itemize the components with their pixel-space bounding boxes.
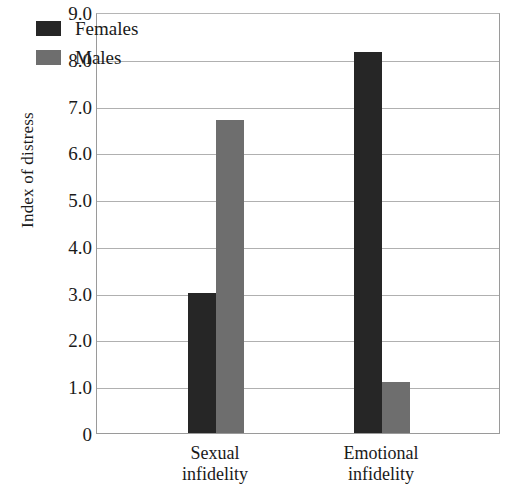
gridline bbox=[97, 154, 499, 155]
x-axis-category-label-line: Emotional bbox=[296, 443, 466, 464]
y-axis-tick-label: 3.0 bbox=[4, 285, 92, 304]
gridline bbox=[97, 248, 499, 249]
y-axis-tick-labels: 9.08.07.06.05.04.03.02.01.00 bbox=[0, 0, 92, 494]
x-axis-category-label-line: Sexual bbox=[130, 443, 300, 464]
gridline bbox=[97, 108, 499, 109]
y-axis-tick-label: 2.0 bbox=[4, 331, 92, 350]
bar-chart-figure: Index of distress 9.08.07.06.05.04.03.02… bbox=[0, 0, 508, 494]
x-axis-category-label-line: infidelity bbox=[130, 464, 300, 485]
plot-area bbox=[96, 13, 500, 434]
y-axis-tick-label: 7.0 bbox=[4, 98, 92, 117]
gridline bbox=[97, 201, 499, 202]
x-axis-category-label: Emotionalinfidelity bbox=[296, 443, 466, 485]
gridline bbox=[97, 295, 499, 296]
legend-label: Females bbox=[75, 19, 138, 38]
gridline bbox=[97, 388, 499, 389]
bar-males-sexual-infidelity bbox=[216, 120, 244, 433]
y-axis-tick-label: 0 bbox=[4, 425, 92, 444]
gridline bbox=[97, 61, 499, 62]
legend-swatch-icon bbox=[36, 21, 61, 36]
bar-females-emotional-infidelity bbox=[354, 52, 382, 433]
gridline bbox=[97, 341, 499, 342]
bar-females-sexual-infidelity bbox=[188, 293, 216, 433]
y-axis-tick-label: 6.0 bbox=[4, 144, 92, 163]
legend-item-females[interactable]: Females bbox=[36, 14, 138, 43]
legend-label: Males bbox=[75, 48, 121, 67]
y-axis-tick-label: 1.0 bbox=[4, 378, 92, 397]
bar-males-emotional-infidelity bbox=[382, 382, 410, 433]
y-axis-tick-label: 5.0 bbox=[4, 191, 92, 210]
legend-item-males[interactable]: Males bbox=[36, 43, 138, 72]
x-axis-category-label: Sexualinfidelity bbox=[130, 443, 300, 485]
chart-legend: FemalesMales bbox=[36, 14, 138, 72]
y-axis-tick-label: 4.0 bbox=[4, 238, 92, 257]
legend-swatch-icon bbox=[36, 50, 61, 65]
x-axis-category-label-line: infidelity bbox=[296, 464, 466, 485]
